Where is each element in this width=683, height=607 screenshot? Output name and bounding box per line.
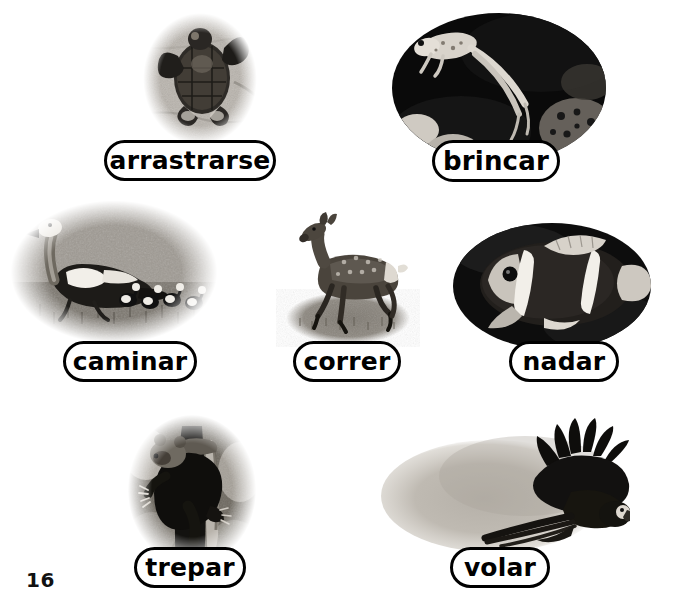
label-pill-trepar[interactable]: trepar — [134, 547, 246, 588]
label-text-brincar: brincar — [443, 148, 549, 174]
label-pill-correr[interactable]: correr — [293, 341, 401, 382]
label-text-nadar: nadar — [523, 349, 606, 374]
bear-photo — [122, 414, 262, 566]
label-pill-arrastrarse[interactable]: arrastrarse — [104, 140, 276, 181]
label-pill-nadar[interactable]: nadar — [509, 341, 619, 382]
label-pill-brincar[interactable]: brincar — [432, 140, 560, 182]
label-text-arrastrarse: arrastrarse — [110, 148, 271, 173]
label-text-volar: volar — [464, 555, 536, 580]
macaw-photo — [375, 418, 630, 568]
sea-turtle-photo — [118, 6, 282, 152]
label-text-correr: correr — [303, 349, 390, 374]
label-pill-caminar[interactable]: caminar — [63, 341, 197, 382]
label-pill-volar[interactable]: volar — [450, 547, 550, 588]
deer-photo — [270, 200, 425, 348]
worksheet-page: arrastrarse — [0, 0, 683, 607]
label-text-trepar: trepar — [145, 555, 235, 580]
clownfish-photo — [452, 222, 652, 350]
label-text-caminar: caminar — [73, 349, 188, 374]
goose-photo — [8, 196, 220, 346]
page-number: 16 — [26, 568, 55, 592]
